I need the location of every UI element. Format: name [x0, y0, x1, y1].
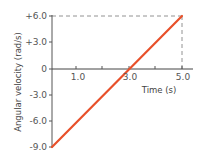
y-tick-label: +3.0 — [25, 37, 47, 47]
x-axis-label: Time (s) — [141, 85, 177, 95]
y-tick-label: -3.0 — [29, 90, 47, 100]
x-tick-label: 3.0 — [123, 72, 138, 82]
y-tick-label: -9.0 — [29, 142, 47, 152]
chart: +6.0 +3.0 0 -3.0 -6.0 -9.0 1.0 3.0 5.0 T… — [0, 0, 201, 158]
x-tick-label: 5.0 — [176, 72, 191, 82]
y-axis-label: Angular velocity (rad/s) — [13, 32, 23, 132]
x-tick-label: 1.0 — [71, 72, 86, 82]
y-tick-label: +6.0 — [25, 11, 47, 21]
y-tick-label: 0 — [41, 64, 47, 74]
y-tick-label: -6.0 — [29, 116, 47, 126]
